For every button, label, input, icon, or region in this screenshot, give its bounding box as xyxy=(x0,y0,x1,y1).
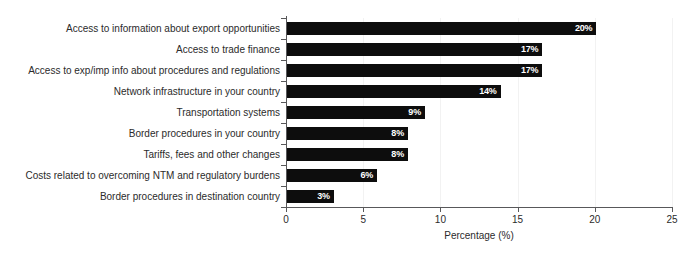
x-axis-tick xyxy=(440,207,441,212)
x-axis-title: Percentage (%) xyxy=(286,230,672,241)
bar-value-label: 8% xyxy=(391,127,404,140)
bar-value-label: 6% xyxy=(360,169,373,182)
bar-value-label: 17% xyxy=(521,64,538,77)
bar-row: 3% xyxy=(286,186,672,207)
category-label: Transportation systems xyxy=(176,102,280,123)
x-axis-tick xyxy=(363,207,364,212)
bar-row: 20% xyxy=(286,18,672,39)
x-axis-tick xyxy=(286,207,287,212)
x-axis-tick xyxy=(518,207,519,212)
bar-row: 8% xyxy=(286,123,672,144)
bar: 6% xyxy=(286,169,377,182)
category-label: Tariffs, fees and other changes xyxy=(143,144,280,165)
category-label: Access to trade finance xyxy=(176,39,280,60)
bar: 8% xyxy=(286,148,408,161)
bar-value-label: 9% xyxy=(408,106,421,119)
bar: 17% xyxy=(286,64,542,77)
bar-value-label: 14% xyxy=(479,85,496,98)
bar-value-label: 3% xyxy=(317,190,330,203)
bar: 3% xyxy=(286,190,334,203)
bar-series: 20%17%17%14%9%8%8%6%3% xyxy=(286,18,672,207)
x-axis-tick-label: 0 xyxy=(283,214,289,225)
bar-row: 17% xyxy=(286,60,672,81)
gridline xyxy=(672,18,673,207)
category-axis-labels: Access to information about export oppor… xyxy=(0,18,280,207)
bar: 9% xyxy=(286,106,425,119)
x-axis-spine xyxy=(286,207,672,208)
bar: 8% xyxy=(286,127,408,140)
category-label: Network infrastructure in your country xyxy=(114,81,280,102)
bar: 14% xyxy=(286,85,501,98)
bar: 17% xyxy=(286,43,542,56)
category-label: Access to information about export oppor… xyxy=(66,18,280,39)
bar-row: 9% xyxy=(286,102,672,123)
y-axis-spine xyxy=(286,16,287,208)
category-label: Border procedures in destination country xyxy=(100,186,280,207)
x-axis-tick-label: 10 xyxy=(435,214,446,225)
category-label: Border procedures in your country xyxy=(129,123,280,144)
bar-row: 6% xyxy=(286,165,672,186)
bar-value-label: 20% xyxy=(575,22,592,35)
category-label: Access to exp/imp info about procedures … xyxy=(28,60,280,81)
bar-value-label: 17% xyxy=(521,43,538,56)
bar-value-label: 8% xyxy=(391,148,404,161)
bar: 20% xyxy=(286,22,596,35)
bar-row: 14% xyxy=(286,81,672,102)
x-axis-tick-label: 5 xyxy=(360,214,366,225)
x-axis-tick-label: 20 xyxy=(589,214,600,225)
x-axis-tick xyxy=(595,207,596,212)
bar-row: 8% xyxy=(286,144,672,165)
x-axis-tick-label: 25 xyxy=(666,214,677,225)
bar-chart: Access to information about export oppor… xyxy=(0,0,688,255)
category-label: Costs related to overcoming NTM and regu… xyxy=(25,165,280,186)
x-axis-tick xyxy=(672,207,673,212)
x-axis-tick-label: 15 xyxy=(512,214,523,225)
bar-row: 17% xyxy=(286,39,672,60)
